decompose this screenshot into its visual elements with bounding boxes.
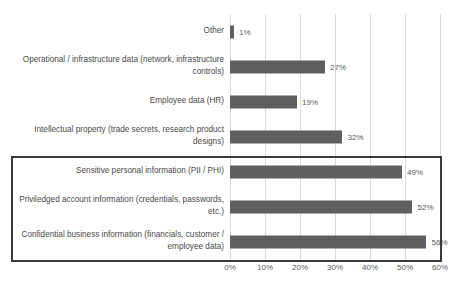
bar-row: 19% — [230, 84, 440, 119]
x-axis-line — [230, 260, 441, 261]
bar-row: 32% — [230, 119, 440, 154]
x-tick-50: 50% — [397, 263, 413, 272]
category-label-confidential-business-information: Confidential business information (finan… — [8, 229, 224, 252]
bar-value-other: 1% — [239, 27, 251, 36]
bar-row: 49% — [230, 154, 440, 189]
bar-value-operational-infrastructure-data: 27% — [330, 62, 346, 71]
gridline-60 — [440, 14, 441, 260]
bar-value-confidential-business-information: 56% — [432, 237, 448, 246]
category-label-priviledged-account-information: Priviledged account information (credent… — [8, 194, 224, 217]
bar-confidential-business-information[interactable] — [230, 235, 426, 248]
bar-row: 56% — [230, 224, 440, 259]
x-tick-60: 60% — [432, 263, 448, 272]
bar-intellectual-property[interactable] — [230, 130, 342, 143]
bar-chart: 1% 27% 19% 32% 49% 52% 56% Other Operati — [0, 0, 463, 289]
bar-row: 52% — [230, 189, 440, 224]
x-tick-20: 20% — [292, 263, 308, 272]
category-label-other: Other — [8, 25, 224, 37]
category-label-operational-infrastructure-data: Operational / infrastructure data (netwo… — [8, 54, 224, 77]
bar-operational-infrastructure-data[interactable] — [230, 60, 325, 73]
bar-value-priviledged-account-information: 52% — [418, 202, 434, 211]
bar-sensitive-personal-information[interactable] — [230, 165, 402, 178]
bar-value-intellectual-property: 32% — [348, 132, 364, 141]
bar-value-sensitive-personal-information: 49% — [407, 167, 423, 176]
category-label-intellectual-property: Intellectual property (trade secrets, re… — [8, 124, 224, 147]
category-label-employee-data: Employee data (HR) — [8, 95, 224, 107]
bar-other[interactable] — [230, 25, 234, 38]
bar-row: 27% — [230, 49, 440, 84]
bar-value-employee-data: 19% — [302, 97, 318, 106]
x-tick-10: 10% — [257, 263, 273, 272]
bar-priviledged-account-information[interactable] — [230, 200, 412, 213]
category-label-sensitive-personal-information: Sensitive personal information (PII / PH… — [8, 165, 224, 177]
plot-area: 1% 27% 19% 32% 49% 52% 56% — [230, 14, 440, 260]
bar-employee-data[interactable] — [230, 95, 297, 108]
bar-row: 1% — [230, 14, 440, 49]
x-tick-30: 30% — [327, 263, 343, 272]
x-tick-40: 40% — [362, 263, 378, 272]
x-tick-0: 0% — [224, 263, 236, 272]
